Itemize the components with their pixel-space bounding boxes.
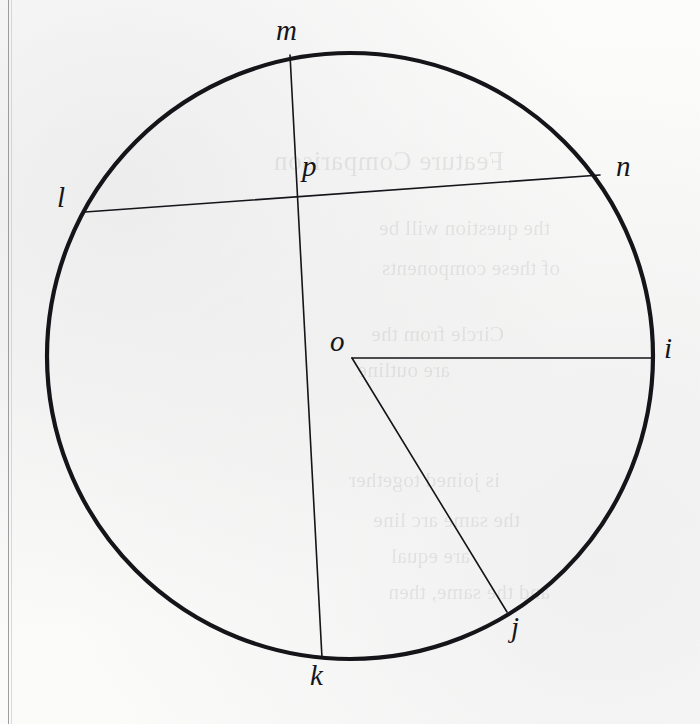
point-label-o: o xyxy=(330,327,345,356)
circle-diagram xyxy=(0,0,700,724)
segment-chord-l-n xyxy=(85,175,600,212)
segment-chord-m-k xyxy=(290,55,322,658)
point-label-i: i xyxy=(664,334,672,363)
segment-radius-o-j xyxy=(352,358,507,612)
figure-page: Feature Comparisonthe question will beof… xyxy=(0,0,700,724)
point-label-p: p xyxy=(302,152,317,181)
point-label-n: n xyxy=(616,152,631,181)
point-label-l: l xyxy=(57,183,65,212)
point-label-j: j xyxy=(511,613,519,642)
point-label-k: k xyxy=(310,661,323,690)
circle-outline xyxy=(47,53,653,659)
point-label-m: m xyxy=(276,16,297,45)
